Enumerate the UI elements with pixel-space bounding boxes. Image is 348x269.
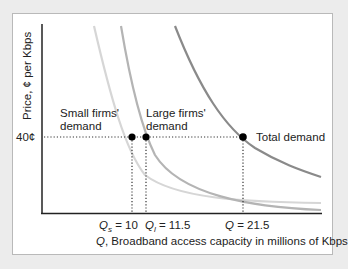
small-firms-demand-curve xyxy=(94,26,321,203)
y-axis-label: Price, ¢ per Kbps xyxy=(21,32,33,120)
ql-tick-label: Ql = 11.5 xyxy=(145,219,190,236)
total-demand-label: Total demand xyxy=(256,131,325,144)
small-firms-label: Small firms' demand xyxy=(60,107,119,133)
qs-tick-label: Qs = 10 xyxy=(99,219,138,236)
x-axis-label: Q, Broadband access capacity in millions… xyxy=(96,235,348,248)
total-demand-curve xyxy=(175,26,321,177)
q-tick-label: Q = 21.5 xyxy=(225,219,269,232)
price-tick-label: 40¢ xyxy=(16,131,35,144)
total-demand-point xyxy=(239,133,247,141)
small-firms-point xyxy=(128,133,135,140)
large-firms-point xyxy=(142,133,149,140)
large-firms-label: Large firms' demand xyxy=(146,107,206,133)
